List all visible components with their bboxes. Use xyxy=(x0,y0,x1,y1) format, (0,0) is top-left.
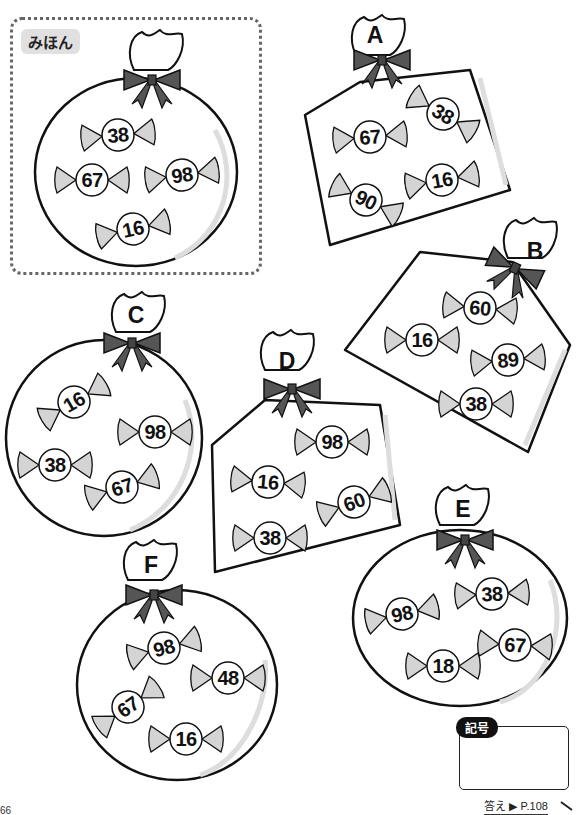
candy: 16 xyxy=(148,721,224,757)
candy: 38 xyxy=(79,114,158,156)
sample-label: みほん xyxy=(21,29,80,54)
candy: 98 xyxy=(294,424,370,460)
candy: 38 xyxy=(232,520,308,556)
bag-d-label: D xyxy=(272,348,302,375)
bag-b-label: B xyxy=(520,238,550,265)
candy: 98 xyxy=(117,414,193,450)
candy: 89 xyxy=(469,339,548,381)
candy: 18 xyxy=(405,648,481,684)
candy: 16 xyxy=(229,461,308,503)
corner-arrow-icon xyxy=(560,800,574,812)
candy: 16 xyxy=(384,322,460,358)
page-number: 66 xyxy=(0,805,11,815)
bag-c-label: C xyxy=(121,302,151,329)
bag-f-label: F xyxy=(136,552,166,579)
candy: 38 xyxy=(17,447,93,483)
candy: 67 xyxy=(476,625,554,665)
candy: 38 xyxy=(438,386,514,422)
bag-e-label: E xyxy=(448,496,478,523)
answer-reference: 答え ▶ P.108 xyxy=(484,797,548,815)
bag-a-label: A xyxy=(360,22,390,49)
answer-tag: 記号 xyxy=(456,717,498,738)
candy: 38 xyxy=(453,574,531,614)
candy: 67 xyxy=(331,116,410,158)
candy: 48 xyxy=(190,660,266,696)
candy: 67 xyxy=(54,162,130,198)
